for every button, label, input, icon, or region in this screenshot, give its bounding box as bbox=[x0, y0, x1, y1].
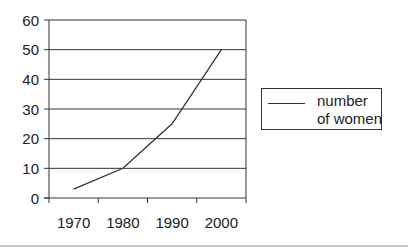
bottom-divider bbox=[0, 245, 408, 247]
y-axis-tick-labels: 0102030405060 bbox=[22, 12, 39, 207]
axes bbox=[44, 20, 246, 203]
x-tick-label: 1970 bbox=[57, 214, 90, 231]
y-tick-label: 60 bbox=[22, 12, 39, 29]
x-tick-label: 1990 bbox=[155, 214, 188, 231]
y-tick-label: 10 bbox=[22, 160, 39, 177]
y-tick-label: 50 bbox=[22, 41, 39, 58]
y-tick-label: 0 bbox=[31, 190, 39, 207]
legend-label: number of women bbox=[317, 92, 383, 128]
x-tick-label: 1980 bbox=[106, 214, 139, 231]
legend-line-swatch bbox=[268, 103, 305, 104]
y-tick-label: 40 bbox=[22, 71, 39, 88]
y-tick-label: 30 bbox=[22, 101, 39, 118]
y-tick-label: 20 bbox=[22, 130, 39, 147]
x-tick-label: 2000 bbox=[205, 214, 238, 231]
legend: number of women bbox=[261, 88, 382, 130]
x-axis-tick-labels: 1970198019902000 bbox=[57, 214, 238, 231]
